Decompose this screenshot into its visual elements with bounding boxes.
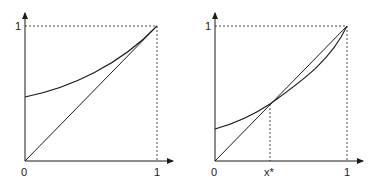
label-x-zero: 0: [21, 166, 27, 178]
label-x-zero: 0: [211, 166, 217, 178]
convex-curve: [25, 26, 157, 97]
label-x-one: 1: [154, 166, 160, 178]
label-y-one: 1: [15, 20, 21, 32]
left-panel: 1 0 1: [15, 13, 173, 178]
diagonal-line: [25, 26, 157, 161]
label-x-one: 1: [344, 166, 350, 178]
label-x-star: x*: [264, 166, 275, 178]
figure: 1 0 1 1 0 x* 1: [0, 0, 377, 183]
label-y-one: 1: [205, 20, 211, 32]
diagonal-line: [215, 26, 347, 161]
convex-curve: [215, 26, 347, 129]
right-panel: 1 0 x* 1: [205, 13, 363, 178]
